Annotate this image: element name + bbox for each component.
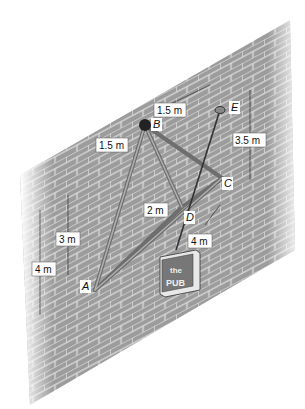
label-C: C [224,177,232,189]
label-A: A [81,280,89,292]
label-E: E [231,101,239,113]
dim-top-right: 1.5 m [157,105,182,116]
anchor-E [215,107,225,114]
label-B: B [153,118,160,130]
sign-line1: the [170,266,183,275]
pub-sign: the PUB [160,250,200,297]
pub-sign-frame-diagram: the PUB 1.5 m 1.5 m 3.5 m 2 m 3 m 4 m 4 … [0,0,305,409]
joint-B [139,119,151,131]
dim-vertical-3: 3 m [59,234,76,245]
sign-line2: PUB [166,278,186,288]
label-D: D [186,211,194,223]
dim-top-left: 1.5 m [99,140,124,151]
dim-vertical-4: 4 m [35,264,52,275]
dim-vertical-E: 3.5 m [235,135,260,146]
dim-horizontal-4: 4 m [191,236,208,247]
dim-depth-D: 2 m [147,205,164,216]
